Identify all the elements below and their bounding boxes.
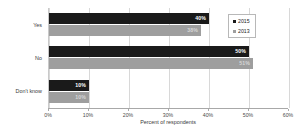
- bar-row: 10%: [49, 92, 288, 103]
- legend-item-2013[interactable]: 2013: [233, 28, 250, 34]
- tick-mark: [248, 109, 249, 111]
- x-axis-ticks: 0%10%20%30%40%50%60%: [48, 109, 288, 119]
- bar-chart: 40%38%50%51%10%10% YesNoDon't know 0%10%…: [0, 0, 307, 130]
- gridline: [289, 8, 290, 108]
- x-axis-title: Percent of respondents: [48, 119, 288, 125]
- bar-2013-no[interactable]: 51%: [49, 58, 253, 69]
- bar-value-label: 40%: [195, 16, 209, 21]
- bar-2013-don-t-know[interactable]: 10%: [49, 92, 89, 103]
- bar-value-label: 10%: [75, 83, 89, 88]
- category-label: No: [35, 55, 42, 61]
- legend-item-2015[interactable]: 2015: [233, 18, 250, 24]
- x-tick-label: 40%: [203, 112, 213, 118]
- bar-row: 10%: [49, 80, 288, 91]
- bar-2013-yes[interactable]: 38%: [49, 25, 201, 36]
- legend-label-2013: 2013: [238, 28, 250, 34]
- category-label: Don't know: [16, 88, 43, 94]
- x-tick-label: 20%: [123, 112, 133, 118]
- bar-row: 51%: [49, 58, 288, 69]
- category-axis-labels: YesNoDon't know: [0, 8, 46, 108]
- bar-row: 50%: [49, 46, 288, 57]
- tick-mark: [168, 109, 169, 111]
- legend-swatch-icon-2013: [233, 30, 236, 33]
- category-label: Yes: [33, 22, 42, 28]
- tick-mark: [88, 109, 89, 111]
- x-tick-label: 10%: [83, 112, 93, 118]
- chart-legend: 2015 2013: [228, 14, 256, 38]
- bar-2015-don-t-know[interactable]: 10%: [49, 80, 89, 91]
- bar-2015-no[interactable]: 50%: [49, 46, 249, 57]
- x-tick-label: 60%: [283, 112, 293, 118]
- tick-mark: [128, 109, 129, 111]
- bar-group: 50%51%: [49, 41, 288, 74]
- bar-2015-yes[interactable]: 40%: [49, 13, 209, 24]
- tick-mark: [288, 109, 289, 111]
- bar-value-label: 50%: [235, 49, 249, 54]
- x-tick-label: 30%: [163, 112, 173, 118]
- x-tick-label: 50%: [243, 112, 253, 118]
- tick-mark: [208, 109, 209, 111]
- legend-swatch-icon-2015: [233, 20, 236, 23]
- bar-value-label: 51%: [239, 61, 253, 66]
- legend-label-2015: 2015: [238, 18, 250, 24]
- x-tick-label: 0%: [44, 112, 52, 118]
- bar-group: 10%10%: [49, 75, 288, 108]
- bar-value-label: 38%: [187, 28, 201, 33]
- tick-mark: [48, 109, 49, 111]
- bar-value-label: 10%: [75, 95, 89, 100]
